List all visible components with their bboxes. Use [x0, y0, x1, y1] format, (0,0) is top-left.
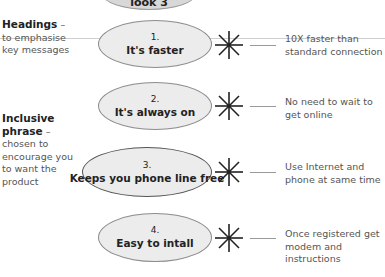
benefit-title: Keeps you phone line free [70, 171, 225, 185]
connector-line [250, 45, 276, 46]
headings-label: Headings [2, 18, 57, 30]
asterisk-icon [212, 89, 246, 123]
phrase-label: phrase [2, 125, 43, 137]
benefit-description: Once registered get modem and instructio… [285, 228, 385, 266]
connector-line [250, 106, 276, 107]
asterisk-icon [212, 155, 246, 189]
benefit-title: Easy to intall [116, 236, 193, 250]
benefit-description: Use Internet and phone at same time [285, 161, 385, 186]
benefit-title: It's faster [126, 43, 183, 57]
headings-annotation: Headings – to emphasise key messages [2, 18, 92, 57]
annotation-line: key messages [2, 44, 92, 57]
connector-line [250, 172, 276, 173]
asterisk-icon [212, 221, 246, 255]
annotation-line: encourage you [2, 151, 92, 164]
benefit-ellipse-2: 2. It's always on [98, 82, 212, 130]
benefit-description: No need to wait to get online [285, 96, 385, 121]
benefit-ellipse-3: 3. Keeps you phone line free [82, 147, 212, 197]
benefit-ellipse-4: 4. Easy to intall [98, 213, 212, 262]
annotation-line: chosen to [2, 138, 92, 151]
benefit-description: 10X faster than standard connection [285, 33, 385, 58]
benefit-title: It's always on [115, 105, 196, 119]
asterisk-icon [212, 28, 246, 62]
benefit-ellipse-1: 1. It's faster [98, 20, 212, 68]
diagram-canvas: look 3 Headings – to emphasise key messa… [0, 0, 385, 277]
inclusive-label: Inclusive [2, 112, 92, 125]
annotation-line: to emphasise [2, 32, 92, 45]
connector-line [250, 238, 276, 239]
top-banner: look 3 [102, 0, 196, 10]
